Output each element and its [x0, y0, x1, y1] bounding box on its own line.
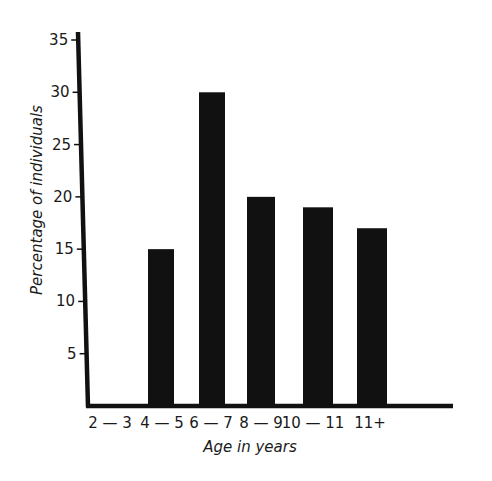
- x-axis-title: Age in years: [202, 438, 297, 456]
- x-category-label: 6 — 7: [189, 414, 233, 432]
- x-category-label: 4 — 5: [140, 414, 184, 432]
- bar-2: [199, 92, 225, 406]
- x-category-label: 11+: [354, 414, 386, 432]
- x-category-label: 8 — 9: [239, 414, 283, 432]
- x-axis-category-labels: 2 — 34 — 56 — 78 — 910 — 1111+: [88, 414, 386, 432]
- y-axis-line: [78, 32, 88, 407]
- y-tick-label: 15: [55, 240, 74, 258]
- y-tick-label: 20: [53, 188, 72, 206]
- bars-group: [148, 92, 387, 406]
- bar-chart: 5101520253035 2 — 34 — 56 — 78 — 910 — 1…: [0, 0, 492, 481]
- x-category-label: 10 — 11: [282, 414, 345, 432]
- bar-5: [357, 228, 387, 406]
- y-tick-label: 35: [49, 31, 68, 49]
- y-tick-label: 30: [51, 83, 70, 101]
- bar-4: [303, 207, 333, 406]
- y-tick-label: 5: [67, 345, 77, 363]
- x-category-label: 2 — 3: [88, 414, 132, 432]
- bar-1: [148, 249, 174, 406]
- y-tick-label: 10: [56, 292, 75, 310]
- bar-3: [247, 197, 275, 406]
- y-axis-title: Percentage of individuals: [28, 105, 46, 295]
- y-tick-label: 25: [52, 136, 71, 154]
